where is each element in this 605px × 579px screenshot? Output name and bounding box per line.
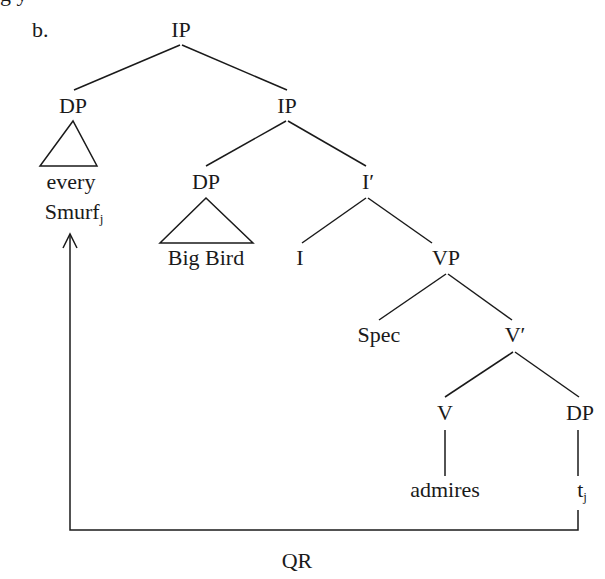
node-spec: Spec: [358, 323, 401, 347]
node-ip-inner: IP: [277, 94, 297, 118]
example-label: b.: [32, 18, 49, 42]
node-dp-object: DP: [566, 401, 594, 425]
word-admires: admires: [410, 478, 480, 502]
word-smurf: Smurfj: [45, 200, 104, 224]
node-vp: VP: [432, 246, 460, 270]
triangle-every-smurf: [40, 121, 97, 166]
node-dp-quantifier: DP: [59, 94, 87, 118]
smurf-index: j: [100, 211, 104, 226]
word-trace: tj: [577, 478, 587, 502]
node-i-bar: I′: [362, 170, 374, 194]
qr-movement-path: [70, 234, 578, 530]
smurf-text: Smurf: [45, 199, 100, 224]
trace-index: j: [583, 489, 587, 504]
branch-ip-dp: [74, 45, 180, 90]
node-ip-root: IP: [171, 18, 191, 42]
node-v-bar: V′: [505, 323, 526, 347]
node-dp-subject: DP: [192, 170, 220, 194]
node-v-head: V: [437, 401, 453, 425]
triangle-big-bird: [160, 198, 253, 243]
movement-label-qr: QR: [282, 549, 313, 573]
node-i-head: I: [296, 246, 303, 270]
tree-branches: [0, 0, 605, 579]
word-big-bird: Big Bird: [168, 246, 244, 270]
word-every: every: [47, 170, 96, 194]
